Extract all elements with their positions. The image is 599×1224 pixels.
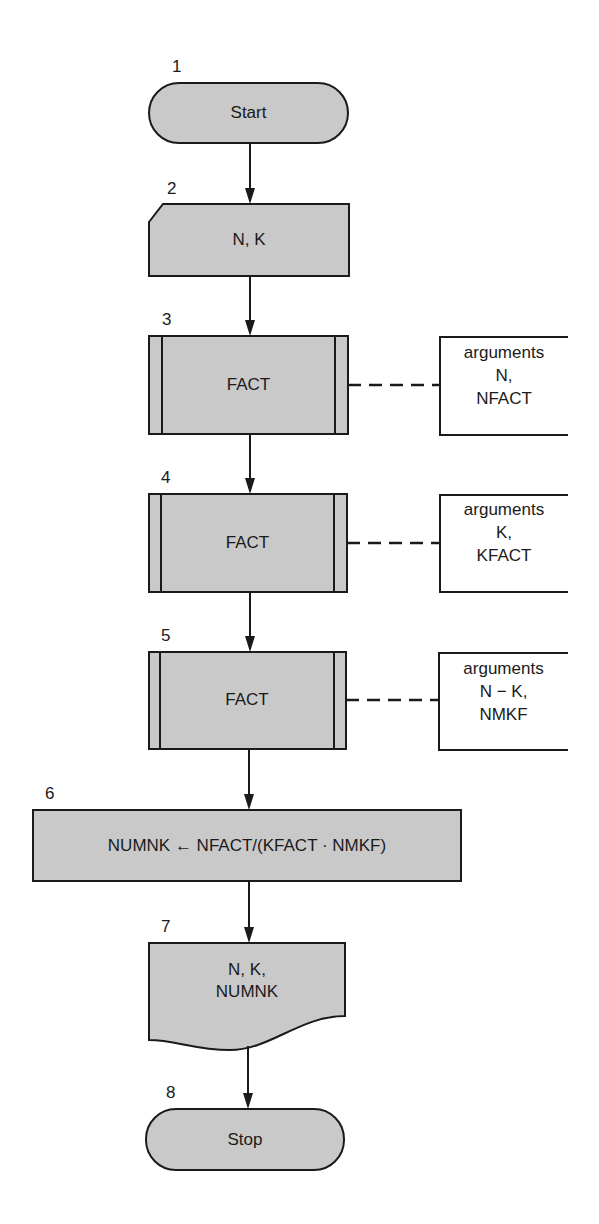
step-number-5: 5 [161,627,170,645]
step-number-2: 2 [167,180,176,198]
flowchart-canvas [0,0,599,1224]
annotation-5-line3: NMKF [439,705,568,725]
step-number-7: 7 [161,918,170,936]
fact-label-3: FACT [162,375,335,395]
annotation-3-line1: arguments [440,343,568,363]
output-label-line1: N, K, [149,960,345,980]
step-number-8: 8 [166,1084,175,1102]
annotation-5-line1: arguments [439,659,568,679]
start-label: Start [149,103,348,123]
output-label-line2: NUMNK [149,982,345,1002]
stop-label: Stop [146,1130,344,1150]
step-number-1: 1 [172,58,181,76]
step-number-3: 3 [162,311,171,329]
process-label-6: NUMNK ← NFACT/(KFACT · NMKF) [33,836,461,856]
annotation-3-line3: NFACT [440,389,568,409]
annotation-5-line2: N − K, [439,682,568,702]
fact-label-5: FACT [160,690,334,710]
annotation-4-line2: K, [440,523,568,543]
fact-label-4: FACT [161,533,334,553]
annotation-4-line3: KFACT [440,546,568,566]
annotation-4-line1: arguments [440,500,568,520]
annotation-3-line2: N, [440,366,568,386]
step-number-6: 6 [45,785,54,803]
step-number-4: 4 [161,469,170,487]
input-label: N, K [149,230,349,250]
